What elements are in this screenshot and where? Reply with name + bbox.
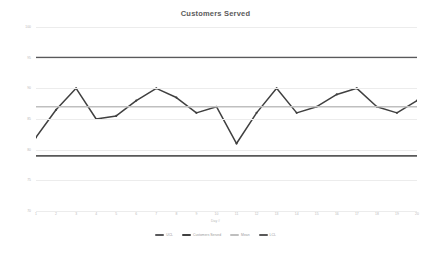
- x-tick-label: 14: [295, 212, 299, 216]
- x-tick-label: 6: [135, 212, 137, 216]
- x-tick-label: 7: [155, 212, 157, 216]
- x-tick-label: 8: [175, 212, 177, 216]
- data-point: [255, 112, 257, 114]
- series-line-customers-served: [36, 88, 417, 143]
- gridline: [36, 58, 417, 59]
- legend-item[interactable]: UCL: [155, 233, 173, 237]
- y-tick-label: 85: [27, 117, 31, 121]
- x-tick-label: 9: [195, 212, 197, 216]
- x-tick-label: 12: [255, 212, 259, 216]
- x-tick-label: 18: [375, 212, 379, 216]
- data-point: [115, 115, 117, 117]
- x-tick-label: 15: [315, 212, 319, 216]
- data-point: [175, 96, 177, 98]
- x-axis-title: Day #: [0, 219, 431, 223]
- data-point: [55, 109, 57, 111]
- x-tick-label: 11: [235, 212, 239, 216]
- legend-swatch: [259, 234, 268, 236]
- y-tick-label: 70: [27, 209, 31, 213]
- gridline: [36, 88, 417, 89]
- gridline: [36, 150, 417, 151]
- data-point: [135, 100, 137, 102]
- plot-area: [36, 27, 417, 212]
- legend-item[interactable]: Customers Served: [182, 233, 221, 237]
- legend-label: UCL: [166, 233, 173, 237]
- x-tick-label: 5: [115, 212, 117, 216]
- x-tick-label: 1: [35, 212, 37, 216]
- legend-label: Customers Served: [193, 233, 221, 237]
- chart-legend: UCLCustomers ServedMeanLCL: [0, 233, 431, 237]
- x-tick-label: 10: [215, 212, 219, 216]
- data-point: [195, 112, 197, 114]
- y-tick-label: 95: [27, 56, 31, 60]
- y-axis-ticks: 100959085807570: [0, 27, 34, 211]
- x-tick-label: 3: [75, 212, 77, 216]
- x-tick-label: 16: [335, 212, 339, 216]
- chart-title: Customers Served: [0, 9, 431, 18]
- x-tick-label: 20: [415, 212, 419, 216]
- data-point: [296, 112, 298, 114]
- gridline: [36, 119, 417, 120]
- y-tick-label: 75: [27, 178, 31, 182]
- gridline: [36, 180, 417, 181]
- y-tick-label: 100: [25, 25, 31, 29]
- x-tick-label: 17: [355, 212, 359, 216]
- y-tick-label: 80: [27, 148, 31, 152]
- legend-swatch: [182, 234, 191, 236]
- data-point: [235, 142, 237, 144]
- chart-container: Customers Served Number of Customers 100…: [0, 0, 431, 254]
- x-tick-label: 13: [275, 212, 279, 216]
- legend-swatch: [230, 234, 239, 236]
- data-point: [336, 93, 338, 95]
- legend-item[interactable]: Mean: [230, 233, 249, 237]
- gridline: [36, 27, 417, 28]
- x-tick-label: 2: [55, 212, 57, 216]
- legend-label: Mean: [241, 233, 249, 237]
- data-point: [396, 112, 398, 114]
- x-tick-label: 4: [95, 212, 97, 216]
- y-tick-label: 90: [27, 86, 31, 90]
- legend-swatch: [155, 234, 164, 236]
- x-tick-label: 19: [395, 212, 399, 216]
- legend-item[interactable]: LCL: [259, 233, 276, 237]
- legend-label: LCL: [270, 233, 276, 237]
